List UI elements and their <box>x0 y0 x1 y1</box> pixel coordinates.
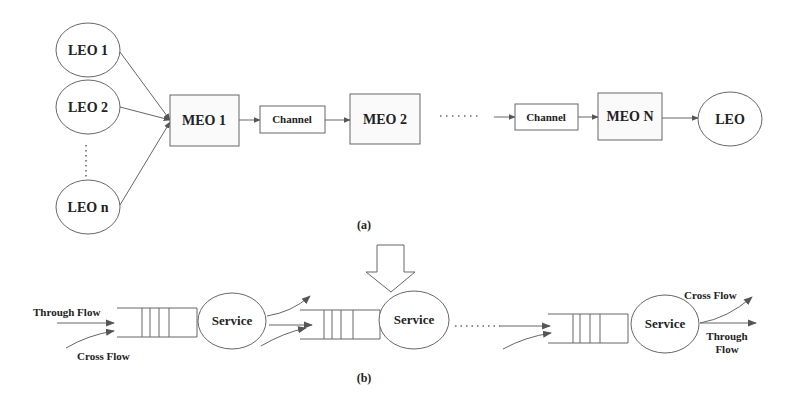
diagram-canvas: LEO 1 LEO 2 LEO n MEO 1 Channel <box>0 0 796 405</box>
through-flow-output-label-line2: Flow <box>715 343 738 355</box>
channel-node-1-label: Channel <box>272 113 312 125</box>
cross-flow-exit-arrow-1 <box>267 296 310 316</box>
through-flow-input-label: Through Flow <box>33 306 100 318</box>
service-node-1-label: Service <box>212 313 253 328</box>
leo-destination-node: LEO <box>698 92 762 146</box>
meo-node-1: MEO 1 <box>170 95 239 146</box>
queue-buffer-1 <box>117 308 197 337</box>
arrow-leo2-to-meo1 <box>120 107 170 120</box>
meo-node-1-label: MEO 1 <box>182 113 226 128</box>
meo-node-2: MEO 2 <box>350 94 420 144</box>
service-node-2: Service <box>379 291 449 349</box>
leo-node-n-label: LEO n <box>68 200 109 215</box>
service-node-2-label: Service <box>394 312 435 327</box>
channel-node-2-label: Channel <box>526 111 566 123</box>
service-node-3-label: Service <box>645 316 686 331</box>
leo-node-2: LEO 2 <box>56 80 120 134</box>
channel-node-2: Channel <box>515 104 578 130</box>
arrow-leo1-to-meo1 <box>120 52 170 120</box>
leo-node-1-label: LEO 1 <box>68 43 108 58</box>
cross-flow-input-label: Cross Flow <box>77 350 130 362</box>
arrow-leon-to-meo1 <box>120 122 170 205</box>
meo-node-2-label: MEO 2 <box>363 112 407 127</box>
cross-flow-input-arrow <box>66 331 114 348</box>
channel-node-1: Channel <box>260 106 325 133</box>
diagram-a: LEO 1 LEO 2 LEO n MEO 1 Channel <box>56 23 762 234</box>
meo-node-n: MEO N <box>598 93 662 140</box>
caption-b: (b) <box>357 371 372 385</box>
down-arrow-icon <box>366 245 415 292</box>
cross-flow-output-label: Cross Flow <box>684 289 737 301</box>
leo-node-1: LEO 1 <box>56 23 120 77</box>
cross-flow-entry-arrow-2 <box>261 328 306 346</box>
service-node-1: Service <box>198 293 266 349</box>
cross-flow-entry-arrow-3 <box>503 333 551 349</box>
diagram-b: Through Flow Cross Flow Service <box>33 245 756 385</box>
leo-node-2-label: LEO 2 <box>68 100 108 115</box>
leo-node-n: LEO n <box>56 180 120 234</box>
service-node-3: Service <box>631 295 699 353</box>
through-flow-output-label-line1: Through <box>706 330 747 342</box>
leo-destination-label: LEO <box>715 112 745 127</box>
caption-a: (a) <box>357 218 371 232</box>
queue-buffer-3 <box>548 314 628 343</box>
meo-node-n-label: MEO N <box>606 109 653 124</box>
